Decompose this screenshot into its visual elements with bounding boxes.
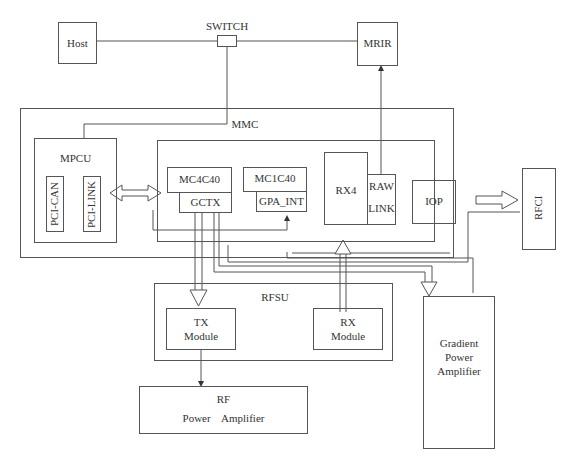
- rfci-label: RFCI: [532, 180, 545, 236]
- gpa-label-3: Amplifier: [423, 365, 495, 378]
- tx-module-label-1: TX: [166, 316, 236, 329]
- rf-pa-label-1: RF: [139, 393, 308, 406]
- system-block-diagram: Host SWITCH MRIR MMC MPCU PCI-CAN PCI-LI…: [0, 0, 572, 463]
- host-label: Host: [58, 37, 97, 50]
- switch-box: [217, 35, 237, 47]
- pci-can-label: PCI-CAN: [48, 178, 61, 230]
- gpa-label-1: Gradient: [423, 337, 495, 350]
- rx-module-label-1: RX: [313, 316, 383, 329]
- rf-pa-label-2: Power Amplifier: [139, 412, 308, 425]
- mrir-label: MRIR: [357, 37, 398, 50]
- mmc-label: MMC: [220, 118, 270, 131]
- switch-label: SWITCH: [200, 20, 254, 33]
- tx-module-box: [166, 308, 236, 350]
- mc4c40-label: MC4C40: [167, 173, 232, 186]
- rx-module-box: [313, 308, 383, 350]
- gpa-label-2: Power: [423, 351, 495, 364]
- mpcu-label: MPCU: [34, 152, 117, 165]
- mc1c40-label: MC1C40: [243, 172, 307, 185]
- gpa-int-label: GPA_INT: [256, 195, 307, 208]
- iop-label: IOP: [412, 195, 456, 208]
- pci-link-label: PCI-LINK: [85, 178, 98, 230]
- raw-link-label-1: RAW: [367, 180, 396, 193]
- rx4-label: RX4: [324, 184, 368, 197]
- raw-link-label-2: LINK: [367, 202, 396, 215]
- gctx-label: GCTX: [179, 196, 232, 209]
- rx-module-label-2: Module: [313, 330, 383, 343]
- tx-module-label-2: Module: [166, 330, 236, 343]
- rfsu-label: RFSU: [250, 291, 300, 304]
